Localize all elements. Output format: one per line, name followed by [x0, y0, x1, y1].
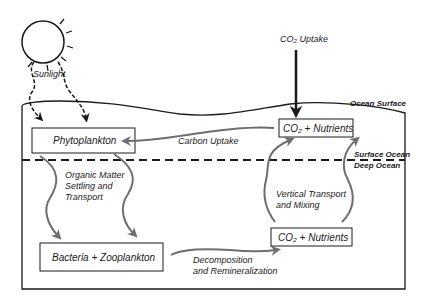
organic-matter-arrow-right	[114, 154, 134, 234]
co2-nutrients-deep-label: CO₂ + Nutrients	[278, 232, 348, 243]
vertical-transport-label: Vertical Transport and Mixing	[276, 189, 349, 210]
vertical-transport-line-2: and Mixing	[276, 200, 320, 210]
co2-uptake-label: CO₂ Uptake	[280, 34, 328, 44]
phytoplankton-box: Phytoplankton	[32, 128, 135, 153]
bacteria-zooplankton-label: Bacteria + Zooplankton	[52, 252, 156, 263]
surface-ocean-label: Surface Ocean	[354, 150, 410, 159]
decomposition-line-2: and Remineralization	[193, 266, 278, 276]
vertical-transport-line-1: Vertical Transport	[276, 189, 347, 199]
phytoplankton-label: Phytoplankton	[53, 135, 117, 146]
co2-nutrients-surface-label: CO₂ + Nutrients	[283, 123, 353, 134]
organic-matter-line-3: Transport	[65, 192, 103, 202]
decomposition-label: Decomposition and Remineralization	[193, 255, 278, 276]
bacteria-zooplankton-box: Bacteria + Zooplankton	[40, 243, 163, 271]
decomposition-line-1: Decomposition	[193, 255, 253, 265]
organic-matter-line-2: Settling and	[65, 181, 114, 191]
carbon-uptake-label: Carbon Uptake	[178, 136, 239, 146]
deep-ocean-label: Deep Ocean	[354, 161, 400, 170]
co2-nutrients-surface-box: CO₂ + Nutrients	[279, 119, 353, 137]
sunlight-label: Sunlight	[33, 69, 66, 79]
organic-matter-label: Organic Matter Settling and Transport	[65, 170, 127, 202]
organic-matter-arrow-left	[40, 156, 58, 236]
co2-nutrients-deep-box: CO₂ + Nutrients	[271, 228, 352, 246]
organic-matter-line-1: Organic Matter	[65, 170, 126, 180]
ocean-surface-label: Ocean Surface	[350, 99, 407, 108]
sun-icon	[22, 19, 73, 71]
ocean-carbon-cycle-diagram: Sunlight Ocean Surface CO₂ Uptake Surfac…	[0, 0, 426, 304]
